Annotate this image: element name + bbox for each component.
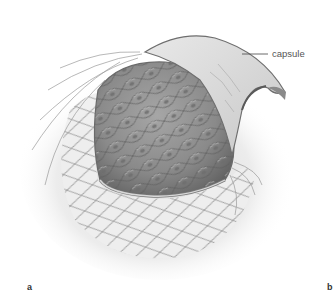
panel-label-a: a bbox=[27, 282, 32, 292]
capsule-illustration: capsule a b bbox=[0, 0, 333, 305]
illustration-svg bbox=[0, 0, 333, 305]
panel-label-b: b bbox=[327, 282, 333, 292]
capsule-label: capsule bbox=[272, 48, 305, 59]
